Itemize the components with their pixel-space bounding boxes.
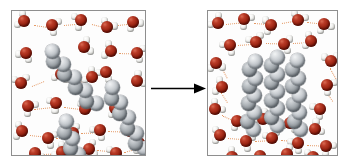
oxygen-atom	[15, 77, 27, 89]
oxygen-atom	[254, 150, 266, 156]
oxygen-atom	[86, 71, 98, 83]
oxygen-atom	[314, 103, 326, 115]
carbon-atom	[248, 54, 263, 69]
oxygen-atom	[16, 125, 28, 137]
oxygen-atom	[266, 132, 278, 144]
hydrogen-bond	[268, 155, 286, 156]
reaction-arrow	[151, 80, 206, 91]
oxygen-atom	[307, 151, 319, 156]
hydrophobic-effect-figure: Hydrophobic effect: nonpolar chains aggr…	[0, 0, 348, 165]
oxygen-atom	[320, 140, 332, 152]
hydrogen-bond	[32, 81, 44, 87]
dispersed-state-panel	[11, 10, 146, 156]
hydrogen-atom	[289, 155, 296, 156]
carbon-atom	[45, 44, 60, 59]
hydrogen-bond	[221, 92, 228, 103]
oxygen-atom	[29, 147, 41, 156]
aggregated-state-stage	[208, 11, 337, 155]
oxygen-atom	[325, 55, 337, 67]
oxygen-atom	[281, 148, 293, 156]
oxygen-atom	[94, 124, 106, 136]
oxygen-atom	[18, 15, 30, 27]
oxygen-atom	[105, 45, 117, 57]
oxygen-atom	[101, 21, 113, 33]
arrow-right-icon	[151, 83, 206, 94]
oxygen-atom	[50, 97, 62, 109]
carbon-atom	[290, 53, 305, 68]
oxygen-atom	[224, 39, 236, 51]
dispersed-state-stage	[12, 11, 145, 155]
carbon-atom	[105, 80, 120, 95]
oxygen-atom	[238, 13, 250, 25]
oxygen-atom	[46, 19, 58, 31]
oxygen-atom	[321, 79, 333, 91]
oxygen-atom	[127, 16, 139, 28]
oxygen-atom	[110, 147, 122, 156]
oxygen-atom	[75, 14, 87, 26]
oxygen-atom	[292, 14, 304, 26]
hydrogen-bond	[330, 68, 337, 79]
carbon-atom	[270, 50, 285, 65]
oxygen-atom	[209, 103, 221, 115]
oxygen-atom	[226, 151, 238, 156]
oxygen-atom	[212, 17, 224, 29]
oxygen-atom	[305, 35, 317, 47]
oxygen-atom	[22, 100, 34, 112]
oxygen-atom	[265, 19, 277, 31]
figure-title: Hydrophobic effect: nonpolar chains aggr…	[0, 0, 1, 1]
oxygen-atom	[214, 129, 226, 141]
oxygen-atom	[250, 36, 262, 48]
oxygen-atom	[216, 81, 228, 93]
oxygen-atom	[292, 137, 304, 149]
aggregated-state-panel	[207, 10, 338, 156]
